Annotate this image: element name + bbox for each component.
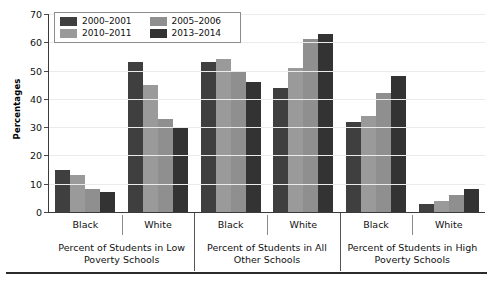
bar xyxy=(449,195,464,212)
legend-item[interactable]: 2000–2001 xyxy=(60,16,146,26)
bar xyxy=(419,204,434,212)
y-axis-tick xyxy=(44,155,48,156)
y-axis-tick-label: 60 xyxy=(14,37,42,48)
bar xyxy=(55,170,70,212)
bar xyxy=(376,93,391,212)
gridline xyxy=(49,155,485,156)
bar xyxy=(173,127,188,212)
legend-item[interactable]: 2013–2014 xyxy=(150,28,236,38)
legend-label: 2000–2001 xyxy=(82,16,131,26)
y-axis-tick-label: 30 xyxy=(14,122,42,133)
bar xyxy=(361,116,376,212)
bottom-rule xyxy=(6,272,487,274)
bar xyxy=(273,88,288,212)
legend-label: 2010–2011 xyxy=(82,28,131,38)
gridline xyxy=(49,184,485,185)
bar-chart: Percentages 706050403020100 2000–2001200… xyxy=(0,0,493,291)
bar-groups xyxy=(49,14,485,212)
y-axis-tick xyxy=(44,184,48,185)
bar xyxy=(158,119,173,212)
bar xyxy=(303,39,318,212)
x-axis-group-label: Percent of Students in High Poverty Scho… xyxy=(340,237,485,271)
bar xyxy=(231,71,246,212)
y-axis-tick xyxy=(44,127,48,128)
x-axis-category-label: White xyxy=(267,213,340,237)
bar-group xyxy=(267,14,340,212)
y-axis-tick xyxy=(44,14,48,15)
x-axis-group-label: Percent of Students in Low Poverty Schoo… xyxy=(49,237,194,271)
bar xyxy=(434,201,449,212)
gridline xyxy=(49,99,485,100)
y-axis-tick-label: 20 xyxy=(14,150,42,161)
y-axis-tick-label: 0 xyxy=(14,207,42,218)
bar xyxy=(85,189,100,212)
legend-swatch-icon xyxy=(150,29,167,38)
bar-group xyxy=(412,14,485,212)
bar-group xyxy=(340,14,413,212)
y-axis-tick xyxy=(44,42,48,43)
bar-group xyxy=(122,14,195,212)
legend: 2000–20012005–20062010–20112013–2014 xyxy=(54,12,241,43)
bar xyxy=(391,76,406,212)
y-axis-tick xyxy=(44,99,48,100)
gridline xyxy=(49,71,485,72)
bar xyxy=(246,82,261,212)
x-axis-category-label: Black xyxy=(49,213,122,237)
x-axis-category-band: BlackWhiteBlackWhiteBlackWhite xyxy=(49,213,485,237)
y-axis-tick-label: 70 xyxy=(14,9,42,20)
x-axis-category-label: White xyxy=(122,213,195,237)
x-axis-category-label: White xyxy=(412,213,485,237)
legend-swatch-icon xyxy=(150,17,167,26)
bar-group xyxy=(49,14,122,212)
y-axis-tick-label: 10 xyxy=(14,178,42,189)
legend-item[interactable]: 2010–2011 xyxy=(60,28,146,38)
bar-group xyxy=(194,14,267,212)
y-axis-tick xyxy=(44,212,48,213)
bar xyxy=(128,62,143,212)
plot-area xyxy=(49,14,485,212)
legend-swatch-icon xyxy=(60,17,77,26)
bar xyxy=(318,34,333,212)
y-axis-tick-labels: 706050403020100 xyxy=(14,14,42,212)
bar xyxy=(346,122,361,213)
bar xyxy=(216,59,231,212)
legend-label: 2013–2014 xyxy=(172,28,221,38)
bar xyxy=(464,189,479,212)
bar xyxy=(288,68,303,212)
x-axis-group-band: Percent of Students in Low Poverty Schoo… xyxy=(49,237,485,271)
gridline xyxy=(49,127,485,128)
x-axis-group-label: Percent of Students in All Other Schools xyxy=(194,237,339,271)
y-axis-tick-label: 40 xyxy=(14,93,42,104)
x-axis-category-label: Black xyxy=(194,213,267,237)
y-axis-tick xyxy=(44,71,48,72)
y-axis-tick-label: 50 xyxy=(14,65,42,76)
legend-item[interactable]: 2005–2006 xyxy=(150,16,236,26)
x-axis-category-label: Black xyxy=(340,213,413,237)
legend-label: 2005–2006 xyxy=(172,16,221,26)
bar xyxy=(201,62,216,212)
legend-swatch-icon xyxy=(60,29,77,38)
bar xyxy=(143,85,158,212)
bar xyxy=(70,175,85,212)
bar xyxy=(100,192,115,212)
